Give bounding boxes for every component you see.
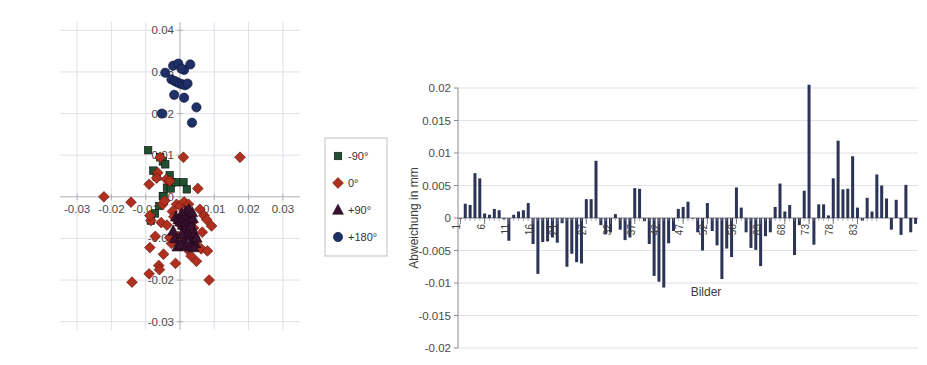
bar-ytick-label: -0.005 <box>418 245 451 257</box>
bar-ytick-label: -0.015 <box>418 310 451 322</box>
bar <box>638 189 641 218</box>
bar-xtick-label: 11 <box>500 224 511 235</box>
bar-yaxis-title: Abweichung in mm <box>407 167 421 268</box>
bar <box>498 210 501 218</box>
scatter-point <box>183 79 192 88</box>
bar-xtick-label: 1 <box>451 224 462 230</box>
bar <box>812 218 815 245</box>
bar <box>590 199 593 218</box>
bar <box>909 218 912 232</box>
bar <box>856 208 859 218</box>
scatter-xtick-label: -0.02 <box>98 203 124 215</box>
bar <box>832 178 835 218</box>
bar <box>706 203 709 218</box>
bar <box>585 199 588 218</box>
bar <box>783 212 786 219</box>
bar-xaxis-title: Bilder <box>691 285 722 299</box>
bar-xtick-label: 6 <box>476 224 487 230</box>
legend-item-4[interactable]: +180° <box>333 231 377 243</box>
bar <box>740 208 743 218</box>
legend-label: 0° <box>348 177 359 189</box>
bar-ytick-label: -0.01 <box>425 277 451 289</box>
bar-ytick-label: 0.015 <box>422 115 451 127</box>
scatter-legend: -90°0°+90°+180° <box>325 138 387 256</box>
bar <box>478 178 481 218</box>
bar-xtick-label: 21 <box>548 224 559 236</box>
bar <box>846 189 849 218</box>
bar <box>735 187 738 218</box>
bar <box>488 215 491 218</box>
bar <box>483 213 486 218</box>
bar <box>536 218 539 274</box>
bar-xtick-label: 58 <box>727 224 738 236</box>
bar <box>565 218 568 267</box>
bar <box>870 212 873 219</box>
legend-label: +90° <box>348 204 371 216</box>
bar <box>803 191 806 218</box>
bar-ytick-label: 0.02 <box>429 82 451 94</box>
bar-xtick-label: 16 <box>524 224 535 236</box>
scatter-point <box>162 161 170 169</box>
bar <box>827 215 830 218</box>
scatter-point <box>179 93 188 102</box>
bar <box>900 218 903 235</box>
legend-label: +180° <box>348 231 377 243</box>
bar <box>730 218 733 257</box>
bar-ytick-label: 0.005 <box>422 180 451 192</box>
bar-xtick-label: 78 <box>824 224 835 236</box>
bar <box>464 204 467 218</box>
bar-xtick-label: 63 <box>752 224 763 236</box>
bar <box>890 218 893 230</box>
bar <box>682 207 685 218</box>
bar <box>851 156 854 218</box>
scatter-point <box>186 60 195 69</box>
scatter-point <box>192 103 201 112</box>
bar-xtick-label: 83 <box>848 224 859 236</box>
scatter-plot-svg: -0.03-0.02-0.010.010.020.030.040.030.020… <box>0 0 400 365</box>
bar <box>880 186 883 219</box>
bar <box>720 218 723 279</box>
legend-item-3[interactable]: +90° <box>333 204 371 216</box>
bar <box>778 184 781 218</box>
bar <box>895 200 898 218</box>
bar <box>522 210 525 218</box>
scatter-point <box>144 146 152 154</box>
bar <box>822 204 825 218</box>
bar-ytick-label: 0.01 <box>429 147 451 159</box>
bar <box>667 218 670 243</box>
bar-xtick-label: 32 <box>602 224 613 236</box>
bar <box>914 218 917 224</box>
scatter-ytick-label: -0.03 <box>148 316 174 328</box>
scatter-point <box>98 191 109 202</box>
scatter-point <box>157 109 166 118</box>
bar <box>904 185 907 218</box>
bar <box>716 218 719 245</box>
bar <box>788 205 791 218</box>
bar <box>614 214 617 218</box>
bar <box>527 203 530 218</box>
bar-xtick-label: 68 <box>776 224 787 236</box>
bar <box>875 174 878 218</box>
bar-chart-svg: 0.020.0150.010.0050-0.005-0.01-0.015-0.0… <box>400 0 927 365</box>
bar-ytick-label: 0 <box>445 212 451 224</box>
scatter-xtick-label: -0.03 <box>64 203 90 215</box>
bar <box>570 218 573 254</box>
bar-xtick-label: 73 <box>800 224 811 236</box>
scatter-point <box>204 275 215 286</box>
scatter-xtick-label: 0.02 <box>237 203 259 215</box>
scatter-point <box>183 186 191 194</box>
scatter-point <box>235 152 246 163</box>
bar <box>541 218 544 242</box>
legend-label: -90° <box>348 150 368 162</box>
figure-root: -0.03-0.02-0.010.010.020.030.040.030.020… <box>0 0 927 365</box>
bar <box>633 188 636 218</box>
bar <box>473 173 476 218</box>
bar <box>677 209 680 218</box>
bar <box>808 85 811 218</box>
bar-xtick-label: 47 <box>674 224 685 236</box>
bar <box>517 212 520 219</box>
bar <box>885 199 888 219</box>
bar-series <box>459 85 917 288</box>
bar <box>793 218 796 255</box>
bar <box>493 209 496 218</box>
